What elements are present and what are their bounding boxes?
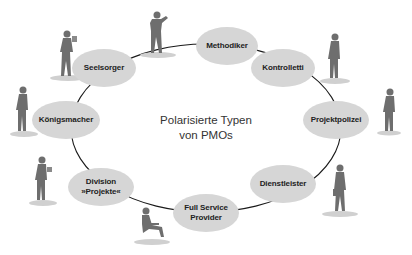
person-reading-2-icon: [29, 157, 57, 207]
title-line-1: Polarisierte Typen: [140, 113, 272, 128]
diagram-title: Polarisierte Typen von PMOs: [140, 113, 272, 143]
node-label: Projektpolizei: [311, 115, 362, 125]
title-line-2: von PMOs: [140, 128, 272, 143]
node-methodiker: Methodiker: [196, 27, 258, 65]
node-label: Dienstleister: [260, 179, 307, 189]
node-dienstleister: Dienstleister: [250, 165, 316, 203]
node-label-line2: »Projekte«: [81, 187, 120, 197]
node-full-service-provider: Full Service Provider: [173, 194, 239, 232]
person-standing-icon: [320, 34, 350, 85]
person-seated-laptop-icon: [134, 208, 170, 246]
person-briefcase-icon: [322, 165, 358, 218]
node-koenigsmacher: Königsmacher: [32, 101, 100, 139]
node-division-projekte: Division »Projekte«: [68, 168, 134, 206]
node-label: Seelsorger: [84, 63, 124, 73]
node-kontrolletti: Kontrolletti: [251, 49, 315, 87]
node-label-line2: Provider: [184, 213, 228, 223]
node-label-line1: Division: [81, 177, 120, 187]
node-label-line1: Full Service: [184, 203, 228, 213]
node-projektpolizei: Projektpolizei: [303, 101, 369, 139]
person-holding-paper-icon: [377, 89, 401, 136]
person-gesturing-icon: [140, 12, 176, 59]
node-label: Kontrolletti: [262, 63, 303, 73]
node-label: Methodiker: [206, 41, 248, 51]
node-label: Königsmacher: [39, 115, 93, 125]
node-seelsorger: Seelsorger: [72, 49, 136, 87]
